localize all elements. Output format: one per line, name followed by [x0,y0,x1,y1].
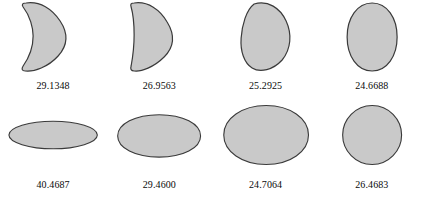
shape-cell-6: 29.4600 [106,100,212,201]
shape-canvas-7 [213,100,319,170]
shape-canvas-2 [106,0,212,74]
shape-value-label-1: 29.1348 [37,80,70,92]
shape-canvas-3 [213,0,319,74]
shape-value-label-8: 26.4683 [355,179,388,191]
shape-flat-wide-ellipse-icon [9,121,97,149]
shape-value-label-6: 29.4600 [143,179,176,191]
shape-cell-1: 29.1348 [0,0,106,100]
shape-cell-4: 24.6688 [319,0,425,100]
shape-rounded-triangle-icon [131,3,173,71]
shape-cell-2: 26.9563 [106,0,212,100]
shape-circle-icon [342,106,401,165]
shape-canvas-6 [106,100,212,170]
shape-asymmetric-egg-icon [240,3,289,70]
shape-value-label-5: 40.4687 [37,179,70,191]
shape-canvas-1 [0,0,106,74]
shape-value-label-7: 24.7064 [249,179,282,191]
shape-figure: 29.1348 26.9563 25.2925 [0,0,425,201]
shape-broad-ellipse-icon [223,106,308,165]
shape-value-label-4: 24.6688 [355,80,388,92]
shape-canvas-5 [0,100,106,170]
shape-concave-rounded-triangle-icon [22,3,66,71]
shape-cell-3: 25.2925 [213,0,319,100]
shape-cell-8: 26.4683 [319,100,425,201]
shape-value-label-3: 25.2925 [249,80,282,92]
shape-wide-ellipse-icon [118,115,201,157]
shape-grid: 29.1348 26.9563 25.2925 [0,0,425,201]
shape-cell-7: 24.7064 [213,100,319,201]
shape-canvas-8 [319,100,425,170]
shape-canvas-4 [319,0,425,74]
shape-vertical-ellipse-icon [347,3,397,71]
shape-value-label-2: 26.9563 [143,80,176,92]
shape-cell-5: 40.4687 [0,100,106,201]
